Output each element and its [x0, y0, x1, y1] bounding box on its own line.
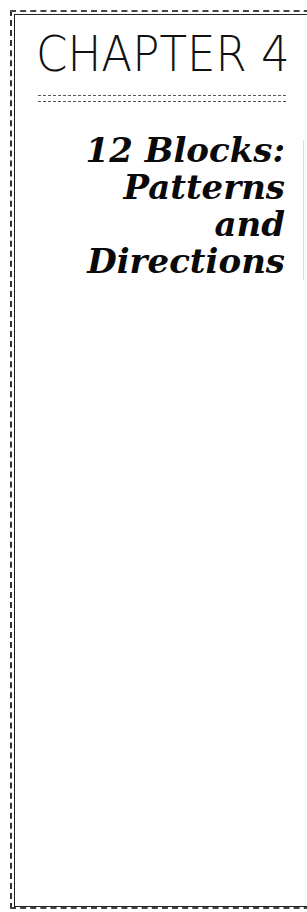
chapter-title: 12 Blocks: Patterns and Directions	[86, 132, 285, 280]
title-line-3: and	[86, 206, 285, 243]
title-line-2: Patterns	[86, 169, 285, 206]
title-line-4: Directions	[86, 243, 285, 280]
chapter-heading: CHAPTER 4	[36, 30, 290, 79]
title-line-1: 12 Blocks:	[86, 132, 285, 169]
dashed-rule-top	[38, 95, 286, 96]
page-edge-line	[303, 140, 304, 280]
dashed-rule-bottom	[38, 101, 286, 102]
